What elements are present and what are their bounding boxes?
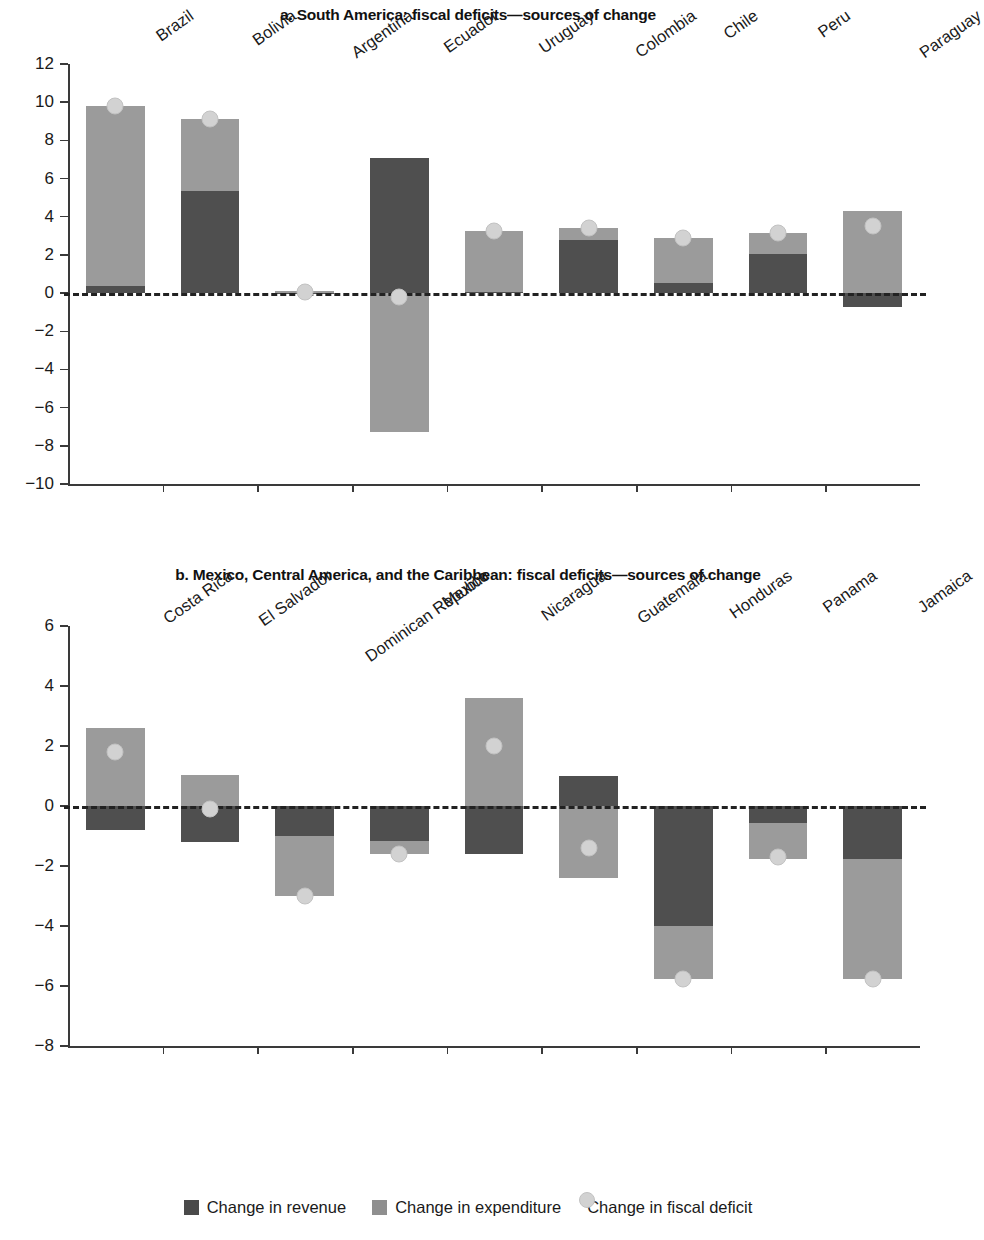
legend-square-icon	[184, 1200, 199, 1215]
legend-label: Change in fiscal deficit	[587, 1198, 752, 1217]
fiscal-deficit-marker	[107, 98, 124, 115]
x-axis-tick	[825, 484, 827, 492]
y-axis-line	[68, 64, 70, 484]
y-axis-tick-label: 4	[6, 207, 54, 227]
y-axis-line	[68, 626, 70, 1046]
y-axis-tick	[60, 63, 68, 65]
fiscal-deficit-marker	[391, 846, 408, 863]
bar-segment-revenue	[181, 191, 240, 293]
x-axis-tick	[447, 1046, 449, 1054]
x-axis-tick	[636, 1046, 638, 1054]
y-axis-tick	[60, 685, 68, 687]
legend-label: Change in expenditure	[395, 1198, 561, 1217]
y-axis-tick-label: −4	[6, 359, 54, 379]
fiscal-deficit-marker	[202, 111, 219, 128]
fiscal-deficit-marker	[770, 224, 787, 241]
x-axis-tick	[163, 484, 165, 492]
y-axis-tick-label: −6	[6, 976, 54, 996]
y-axis-tick-label: −2	[6, 321, 54, 341]
x-axis-tick	[541, 484, 543, 492]
y-axis-tick-label: −8	[6, 436, 54, 456]
fiscal-deficit-marker	[296, 284, 313, 301]
bar-segment-revenue	[749, 254, 808, 293]
bar-segment-revenue	[465, 806, 524, 854]
legend-item-revenue: Change in revenue	[184, 1198, 346, 1217]
bar-segment-revenue	[86, 806, 145, 830]
y-axis-tick-label: 8	[6, 130, 54, 150]
fiscal-deficit-marker	[296, 888, 313, 905]
fiscal-deficit-marker	[770, 849, 787, 866]
fiscal-deficit-marker	[486, 738, 503, 755]
y-axis-tick-label: −4	[6, 916, 54, 936]
y-axis-tick-label: 6	[6, 169, 54, 189]
bar-segment-expenditure	[86, 728, 145, 806]
y-axis-tick-label: 6	[6, 616, 54, 636]
y-axis-tick-label: −2	[6, 856, 54, 876]
legend-item-deficit: Change in fiscal deficit	[587, 1198, 752, 1217]
y-axis-tick-label: 0	[6, 283, 54, 303]
bar-segment-expenditure	[181, 119, 240, 191]
bar-segment-revenue	[559, 240, 618, 293]
fiscal-deficit-marker	[486, 223, 503, 240]
x-axis-line	[68, 484, 920, 486]
y-axis-tick	[60, 483, 68, 485]
bar-segment-revenue	[370, 806, 429, 841]
fiscal-deficit-marker	[107, 744, 124, 761]
fiscal-deficit-marker	[675, 229, 692, 246]
panel-b-plot: 6420−2−4−6−8	[0, 584, 936, 1054]
y-axis-tick	[60, 1045, 68, 1047]
bar-segment-expenditure	[465, 231, 524, 292]
x-axis-tick	[257, 484, 259, 492]
fiscal-deficit-marker	[391, 288, 408, 305]
y-axis-tick-label: −8	[6, 1036, 54, 1056]
y-axis-tick-label: 4	[6, 676, 54, 696]
fiscal-deficit-marker	[580, 220, 597, 237]
y-axis-tick-label: −10	[6, 474, 54, 494]
y-axis-tick-label: −6	[6, 398, 54, 418]
fiscal-deficit-marker	[864, 218, 881, 235]
y-axis-tick	[60, 216, 68, 218]
bar-segment-revenue	[275, 806, 334, 836]
x-axis-tick	[541, 1046, 543, 1054]
x-axis-tick	[731, 1046, 733, 1054]
y-axis-tick	[60, 925, 68, 927]
y-axis-tick	[60, 985, 68, 987]
x-axis-tick	[163, 1046, 165, 1054]
y-axis-tick	[60, 140, 68, 142]
chart-legend: Change in revenueChange in expenditureCh…	[0, 1198, 936, 1217]
bar-segment-expenditure	[843, 859, 902, 979]
x-axis-tick	[352, 1046, 354, 1054]
panel-a-plot: 121086420−2−4−6−8−10	[0, 24, 936, 494]
zero-reference-line	[64, 806, 926, 809]
panel-a: a. South America: fiscal deficits—source…	[0, 6, 936, 494]
bar-segment-revenue	[86, 286, 145, 293]
y-axis-tick	[60, 625, 68, 627]
legend-circle-icon	[579, 1192, 595, 1208]
y-axis-tick	[60, 407, 68, 409]
legend-label: Change in revenue	[207, 1198, 346, 1217]
bar-segment-revenue	[654, 806, 713, 926]
x-axis-tick	[447, 484, 449, 492]
panel-b: b. Mexico, Central America, and the Cari…	[0, 566, 936, 1054]
y-axis-tick	[60, 445, 68, 447]
x-axis-tick	[731, 484, 733, 492]
y-axis-tick-label: 10	[6, 92, 54, 112]
x-axis-tick	[257, 1046, 259, 1054]
y-axis-tick	[60, 101, 68, 103]
legend-square-icon	[372, 1200, 387, 1215]
x-axis-tick	[352, 484, 354, 492]
fiscal-deficit-marker	[202, 801, 219, 818]
bar-segment-revenue	[654, 283, 713, 294]
fiscal-deficit-marker	[675, 970, 692, 987]
y-axis-tick-label: 0	[6, 796, 54, 816]
bar-segment-revenue	[843, 806, 902, 859]
bar-segment-revenue	[559, 776, 618, 806]
x-axis-tick	[825, 1046, 827, 1054]
y-axis-tick	[60, 178, 68, 180]
x-axis-line	[68, 1046, 920, 1048]
x-axis-tick	[636, 484, 638, 492]
y-axis-tick	[60, 254, 68, 256]
y-axis-tick	[60, 369, 68, 371]
y-axis-tick-label: 2	[6, 245, 54, 265]
bar-segment-expenditure	[370, 293, 429, 432]
